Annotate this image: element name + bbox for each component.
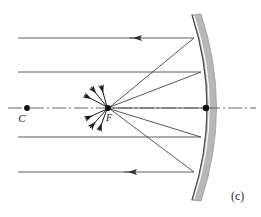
reflected-ray xyxy=(110,109,201,137)
reflected-converging-rays xyxy=(110,38,206,172)
reflected-ray xyxy=(110,72,201,107)
incoming-parallel-rays xyxy=(18,38,201,172)
point-label-C: C xyxy=(18,112,26,124)
point-marker-F xyxy=(105,105,111,111)
focal-divergence-arrow xyxy=(84,95,107,107)
reflected-ray xyxy=(110,38,194,107)
reflected-ray xyxy=(110,109,194,172)
panel-label: (c) xyxy=(231,189,244,203)
point-marker-C xyxy=(24,105,30,111)
point-label-F: F xyxy=(105,112,113,123)
ray-diagram-canvas: CF (c) xyxy=(0,0,261,217)
focal-divergence-arrow xyxy=(90,109,107,128)
point-marker-vertex xyxy=(203,105,209,111)
optics-figure-panel-c: CF (c) xyxy=(0,0,261,217)
